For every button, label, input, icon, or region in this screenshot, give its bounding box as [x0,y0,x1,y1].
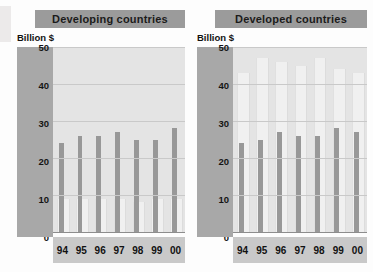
bar-dark-95 [78,136,83,232]
panel-title-banner-developed: Developed countries [215,10,367,28]
y-tick-label: 40 [38,80,49,91]
y-axis-developed: 01020304050 [197,47,233,237]
bar-group [53,47,72,232]
gridline [233,47,367,48]
chart-panel-developed: Developed countries Billion $ 0102030405… [197,0,367,272]
bar-dark-97 [296,136,301,232]
gridline [53,121,185,122]
gridline [53,195,185,196]
y-tick-label: 50 [38,42,49,53]
x-tick-label: 96 [271,245,290,256]
x-tick-label: 97 [110,245,129,256]
gridline [233,158,367,159]
chart-page: Developing countries Billion $ 010203040… [0,0,373,272]
bar-group [166,47,185,232]
bar-group-container-developing [53,47,185,232]
bar-group [128,47,147,232]
y-tick-label: 10 [38,194,49,205]
bar-dark-94 [59,143,64,232]
bar-dark-00 [172,128,177,232]
x-tick-label: 99 [329,245,348,256]
panel-title-developed: Developed countries [235,13,347,25]
bar-dark-99 [334,128,339,232]
x-tick-label: 95 [72,245,91,256]
x-baseline-developing [53,232,185,233]
x-tick-label: 98 [310,245,329,256]
bar-dark-99 [153,140,158,233]
x-tick-label: 96 [91,245,110,256]
bar-dark-94 [239,143,244,232]
x-tick-label: 99 [147,245,166,256]
x-tick-label: 94 [53,245,72,256]
x-tick-label: 00 [348,245,367,256]
bar-dark-00 [354,132,359,232]
y-tick-label: 30 [218,118,229,129]
x-tick-label: 95 [252,245,271,256]
bar-group [91,47,110,232]
bar-group [290,47,309,232]
y-tick-label: 40 [218,80,229,91]
bar-dark-97 [115,132,120,232]
bar-group [310,47,329,232]
y-tick-label: 20 [218,156,229,167]
chart-panel-developing: Developing countries Billion $ 010203040… [17,0,185,272]
bar-dark-98 [315,136,320,232]
bar-group [233,47,252,232]
gridline [53,158,185,159]
panel-title-banner-developing: Developing countries [35,10,185,28]
y-axis-foot-developing [17,230,53,237]
bar-group [348,47,367,232]
bar-group [72,47,91,232]
plot-area-developed [233,47,367,232]
bar-dark-95 [258,140,263,233]
x-baseline-developed [233,232,367,233]
x-tick-label: 97 [290,245,309,256]
y-tick-label: 30 [38,118,49,129]
y-axis-foot-developed [197,230,233,237]
x-axis-band-developing: 94959697989900 [53,237,185,263]
panel-title-developing: Developing countries [52,13,168,25]
x-tick-label: 00 [166,245,185,256]
bar-dark-98 [134,140,139,233]
y-tick-label: 50 [218,42,229,53]
bar-dark-96 [96,136,101,232]
page-edge-strip [0,6,11,42]
y-tick-label: 20 [38,156,49,167]
gridline [233,84,367,85]
x-tick-label: 94 [233,245,252,256]
gridline [233,121,367,122]
bar-group-container-developed [233,47,367,232]
y-axis-developing: 01020304050 [17,47,53,237]
plot-area-developing [53,47,185,232]
bar-group [271,47,290,232]
bar-group [147,47,166,232]
bar-group [110,47,129,232]
gridline [53,47,185,48]
bar-dark-96 [277,132,282,232]
bar-group [252,47,271,232]
y-tick-label: 10 [218,194,229,205]
gridline [233,195,367,196]
x-axis-band-developed: 94959697989900 [233,237,367,263]
bar-group [329,47,348,232]
x-tick-label: 98 [128,245,147,256]
gridline [53,84,185,85]
